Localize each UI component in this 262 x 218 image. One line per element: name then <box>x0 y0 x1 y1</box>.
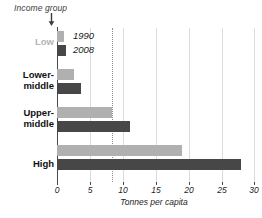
bar-low-1990 <box>57 31 64 42</box>
income-group-annotation: Income group <box>14 3 67 13</box>
bar-chart: Income group Low Lower- middle Upper- <box>0 0 262 218</box>
category-label-line2: middle <box>0 80 54 91</box>
x-tick-label: 5 <box>88 185 93 195</box>
bar-low-2008 <box>57 45 66 56</box>
category-label-low: Low <box>0 36 54 47</box>
bar-high-1990 <box>57 145 182 156</box>
category-label-line1: High <box>33 158 54 169</box>
x-tick-label: 20 <box>184 185 193 195</box>
x-tick-label: 15 <box>151 185 160 195</box>
bar-lower-middle-2008 <box>57 83 81 94</box>
category-label-upper-middle: Upper- middle <box>0 107 54 129</box>
bar-upper-middle-1990 <box>57 107 112 118</box>
x-tick-label: 30 <box>249 185 258 195</box>
x-tick-label: 0 <box>55 185 60 195</box>
category-label-line1: Lower- <box>23 69 54 80</box>
bar-upper-middle-2008 <box>57 121 130 132</box>
category-label-line1: Low <box>35 36 54 47</box>
legend-label-1990: 1990 <box>73 30 94 41</box>
gridline <box>254 28 255 182</box>
x-axis-title: Tonnes per capita <box>0 197 262 207</box>
category-label-high: High <box>0 158 54 169</box>
category-label-line2: middle <box>0 118 54 129</box>
bar-lower-middle-1990 <box>57 69 74 80</box>
legend-label-2008: 2008 <box>73 44 94 55</box>
category-label-line1: Upper- <box>23 107 54 118</box>
x-tick-label: 25 <box>217 185 226 195</box>
category-label-lower-middle: Lower- middle <box>0 69 54 91</box>
bar-high-2008 <box>57 159 241 170</box>
x-tick-label: 10 <box>118 185 127 195</box>
down-arrow-icon <box>47 13 56 26</box>
